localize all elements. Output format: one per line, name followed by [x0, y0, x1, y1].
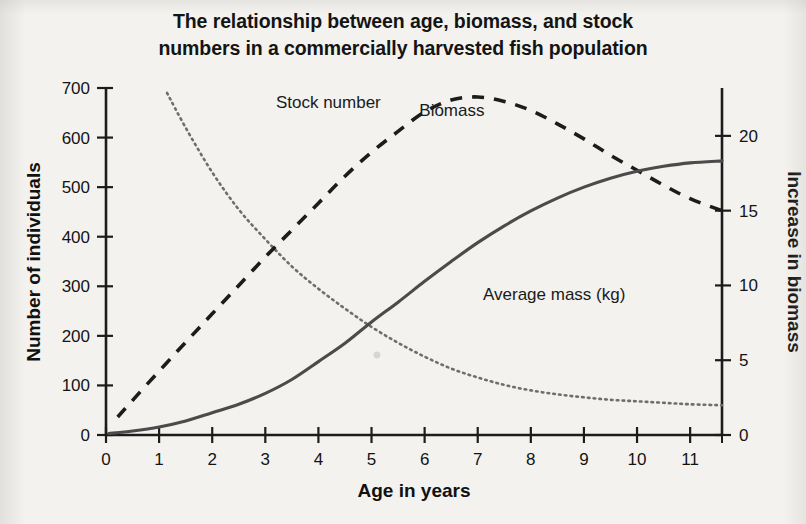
- x-tick-label: 10: [628, 450, 647, 469]
- y-tick-label-right: 5: [739, 351, 748, 370]
- x-tick-label: 7: [473, 450, 482, 469]
- y-axis-left-tick-labels: 0100200300400500600700: [62, 79, 90, 445]
- x-axis-tick-labels: 01234567891011: [101, 450, 699, 469]
- x-tick-label: 5: [367, 450, 376, 469]
- series-line-stock-number: [167, 93, 722, 405]
- x-axis-title: Age in years: [358, 480, 471, 501]
- y-tick-label-left: 0: [81, 426, 90, 445]
- x-tick-label: 2: [207, 450, 216, 469]
- series-label-average-mass: Average mass (kg): [483, 285, 625, 304]
- y-tick-label-right: 10: [739, 276, 758, 295]
- y-tick-label-left: 500: [62, 178, 90, 197]
- y-tick-label-left: 100: [62, 376, 90, 395]
- y-tick-label-left: 700: [62, 79, 90, 98]
- x-tick-label: 8: [526, 450, 535, 469]
- series-label-biomass: Biomass: [419, 101, 484, 120]
- chart-page: The relationship between age, biomass, a…: [0, 0, 806, 524]
- y-tick-label-right: 15: [739, 202, 758, 221]
- y-tick-label-left: 400: [62, 228, 90, 247]
- y-axis-right-title: Increase in biomass: [784, 171, 805, 353]
- chart-plot-area: 0100200300400500600700 05101520 01234567…: [0, 0, 806, 524]
- x-tick-label: 3: [261, 450, 270, 469]
- y-axis-left-title: Number of individuals: [23, 162, 44, 362]
- x-tick-label: 0: [101, 450, 110, 469]
- x-tick-label: 11: [681, 450, 699, 469]
- x-tick-label: 9: [579, 450, 588, 469]
- y-tick-label-right: 20: [739, 127, 758, 146]
- y-tick-label-right: 0: [739, 426, 748, 445]
- y-tick-label-left: 600: [62, 129, 90, 148]
- scan-artifact: [374, 352, 381, 359]
- y-axis-right-tick-labels: 05101520: [739, 127, 758, 445]
- y-tick-label-left: 200: [62, 327, 90, 346]
- series-line-average-mass: [109, 161, 722, 434]
- x-tick-label: 1: [154, 450, 163, 469]
- x-tick-label: 4: [314, 450, 323, 469]
- x-tick-label: 6: [420, 450, 429, 469]
- series-line-biomass: [118, 97, 722, 417]
- y-tick-label-left: 300: [62, 277, 90, 296]
- series-label-stock-number: Stock number: [276, 93, 381, 112]
